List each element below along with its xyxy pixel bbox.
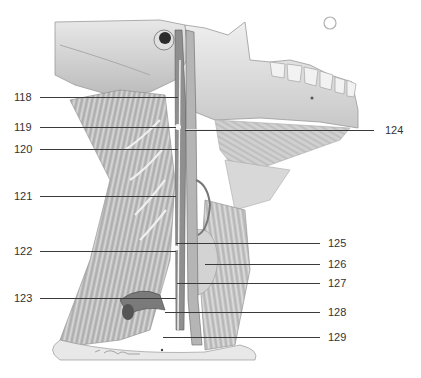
leader-line-122	[40, 251, 176, 252]
label-123: 123	[14, 292, 32, 304]
leader-line-118	[40, 97, 178, 98]
leader-line-129	[163, 337, 320, 338]
label-120: 120	[14, 143, 32, 155]
neck-anatomy-illustration	[0, 0, 421, 378]
leader-line-121	[40, 196, 176, 197]
label-128: 128	[328, 306, 346, 318]
label-126: 126	[328, 258, 346, 270]
leader-line-124	[185, 130, 374, 131]
label-124: 124	[385, 124, 403, 136]
label-125: 125	[328, 237, 346, 249]
ring-mark	[324, 17, 336, 29]
leader-line-127	[177, 283, 320, 284]
label-122: 122	[14, 245, 32, 257]
leader-line-120	[40, 149, 178, 150]
leader-line-123	[40, 298, 176, 299]
cervical-ganglion	[174, 246, 179, 251]
label-121: 121	[14, 190, 32, 202]
leader-line-119	[40, 127, 176, 128]
label-129: 129	[328, 331, 346, 343]
label-119: 119	[14, 121, 32, 133]
leader-line-126	[205, 264, 320, 265]
label-118: 118	[14, 91, 32, 103]
leader-line-125	[176, 243, 320, 244]
label-127: 127	[328, 277, 346, 289]
leader-line-128	[165, 312, 320, 313]
